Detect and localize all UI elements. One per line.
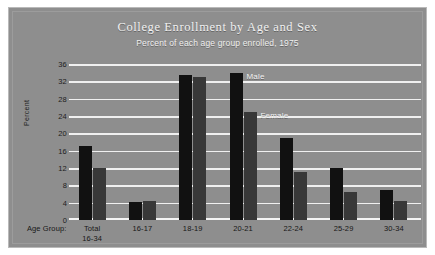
x-axis-tick-label: 16-17: [133, 224, 153, 234]
x-axis-tick-label: 30-34: [384, 224, 404, 234]
bar-female-20-21: [244, 112, 257, 220]
page-title: College Enrollment by Age and Sex: [9, 20, 426, 35]
bar-male-18-19: [179, 75, 192, 220]
chart-subtitle: Percent of each age group enrolled, 1975: [9, 37, 426, 49]
series-annotation-male: Male: [247, 72, 265, 81]
x-axis-tick-label-line1: 30-34: [384, 224, 404, 234]
gridline: [69, 99, 421, 101]
y-axis-tick-label: 8: [45, 181, 67, 190]
gridline: [69, 64, 421, 66]
bar-female-30-34: [394, 201, 407, 221]
y-axis-tick-label: 20: [45, 129, 67, 138]
x-axis-tick-label-line1: Total: [82, 224, 102, 234]
y-axis-tick-label: 4: [45, 198, 67, 207]
x-axis-title: Age Group:: [27, 224, 66, 233]
x-axis-tick-label-line1: 25-29: [334, 224, 354, 234]
x-axis-tick-label: 25-29: [334, 224, 354, 234]
x-axis-tick-label-line2: 16-34: [82, 234, 102, 244]
bar-male-total16-34: [79, 146, 92, 220]
bar-female-total16-34: [93, 168, 106, 220]
plot-area: MaleFemale: [69, 64, 421, 220]
x-axis-tick-label: Total16-34: [82, 224, 102, 243]
title-block: College Enrollment by Age and Sex Percen…: [9, 20, 426, 49]
x-axis-tick-label: 18-19: [183, 224, 203, 234]
y-axis: 36322824201612840: [45, 60, 67, 220]
bar-male-16-17: [129, 202, 142, 220]
y-axis-tick-label: 32: [45, 77, 67, 86]
x-axis-tick-label-line1: 20-21: [233, 224, 253, 234]
x-axis-tick-label-line1: 16-17: [133, 224, 153, 234]
y-axis-title: Percent: [23, 100, 30, 126]
bar-female-25-29: [344, 192, 357, 220]
x-axis-tick-label-line1: 22-24: [283, 224, 303, 234]
x-axis-tick-label-line1: 18-19: [183, 224, 203, 234]
chart-card: College Enrollment by Age and Sex Percen…: [8, 7, 427, 248]
bar-male-22-24: [280, 138, 293, 220]
series-annotation-female: Female: [261, 111, 289, 120]
y-axis-tick-label: 16: [45, 146, 67, 155]
y-axis-tick-label: 12: [45, 164, 67, 173]
bar-male-25-29: [330, 168, 343, 220]
x-axis: Total16-3416-1718-1920-2122-2425-2930-34: [69, 224, 421, 250]
y-axis-tick-label: 24: [45, 112, 67, 121]
y-axis-tick-label: 28: [45, 94, 67, 103]
bar-male-20-21: [230, 73, 243, 220]
bar-female-18-19: [193, 77, 206, 220]
y-axis-tick-label: 36: [45, 60, 67, 69]
bar-male-30-34: [380, 190, 393, 220]
bar-female-22-24: [294, 172, 307, 220]
x-axis-tick-label: 22-24: [283, 224, 303, 234]
bar-female-16-17: [143, 201, 156, 221]
screenshot-root: College Enrollment by Age and Sex Percen…: [0, 0, 435, 255]
x-axis-tick-label: 20-21: [233, 224, 253, 234]
gridline: [69, 81, 421, 83]
